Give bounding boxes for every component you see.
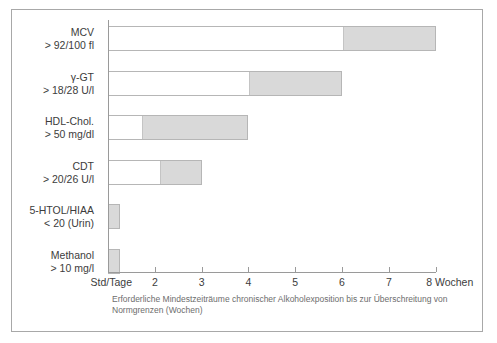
x-tick-mark: [248, 267, 249, 272]
x-tick-label: 2: [152, 276, 158, 288]
bar-mcv: [108, 26, 436, 51]
bar-row-label: MCV> 92/100 fl: [0, 26, 94, 52]
bar-row-label: HDL-Chol.> 50 mg/dl: [0, 115, 94, 141]
figure-frame: MCV> 92/100 flγ-GT> 18/28 U/lHDL-Chol.> …: [11, 9, 483, 332]
x-tick-label: 5: [292, 276, 298, 288]
bar-row-label: 5-HTOL/HIAA< 20 (Urin): [0, 204, 94, 230]
bar-label-threshold: > 18/28 U/l: [0, 84, 94, 97]
bar-5-htol-hiaa: [108, 204, 120, 229]
bar-gt: [108, 71, 342, 96]
bar-fill-segment: [142, 116, 248, 139]
bar-fill-segment: [160, 161, 200, 184]
bar-label-name: γ-GT: [0, 71, 94, 84]
bar-row-label: Methanol> 10 mg/l: [0, 249, 94, 275]
bar-methanol: [108, 249, 120, 274]
bar-label-name: CDT: [0, 160, 94, 173]
x-tick-label: Std/Tage: [91, 276, 132, 288]
x-tick-mark: [389, 267, 390, 272]
bar-fill-segment: [249, 72, 341, 95]
x-tick-mark: [155, 267, 156, 272]
bar-row: CDT> 20/26 U/l: [12, 160, 482, 185]
bar-row-label: γ-GT> 18/28 U/l: [0, 71, 94, 97]
bar-row: γ-GT> 18/28 U/l: [12, 71, 482, 96]
x-tick-label: 3: [199, 276, 205, 288]
x-tick-mark: [436, 267, 437, 272]
bar-label-name: MCV: [0, 26, 94, 39]
x-tick-label: 4: [245, 276, 251, 288]
bar-label-name: Methanol: [0, 249, 94, 262]
bar-row: Methanol> 10 mg/l: [12, 249, 482, 274]
bar-label-name: 5-HTOL/HIAA: [0, 204, 94, 217]
x-tick-mark: [108, 267, 109, 272]
bar-row: MCV> 92/100 fl: [12, 26, 482, 51]
bar-label-threshold: > 20/26 U/l: [0, 173, 94, 186]
x-tick-mark: [295, 267, 296, 272]
bar-fill-segment: [343, 27, 435, 50]
bar-label-threshold: < 20 (Urin): [0, 217, 94, 230]
x-axis-line: [108, 272, 436, 273]
bar-row: HDL-Chol.> 50 mg/dl: [12, 115, 482, 140]
x-tick-label: 6: [339, 276, 345, 288]
bar-row-label: CDT> 20/26 U/l: [0, 160, 94, 186]
bar-chart-plot: MCV> 92/100 flγ-GT> 18/28 U/lHDL-Chol.> …: [12, 10, 482, 331]
x-tick-mark: [342, 267, 343, 272]
bar-row: 5-HTOL/HIAA< 20 (Urin): [12, 204, 482, 229]
bar-cdt: [108, 160, 202, 185]
x-tick-label: 8 Wochen: [426, 276, 473, 288]
bar-hdl-chol: [108, 115, 248, 140]
bar-label-threshold: > 50 mg/dl: [0, 128, 94, 141]
x-tick-label: 7: [386, 276, 392, 288]
chart-caption: Erforderliche Mindestzeiträume chronisch…: [112, 294, 452, 316]
bar-label-name: HDL-Chol.: [0, 115, 94, 128]
bar-label-threshold: > 92/100 fl: [0, 39, 94, 52]
y-axis-line: [108, 20, 109, 272]
bar-label-threshold: > 10 mg/l: [0, 262, 94, 275]
x-tick-mark: [202, 267, 203, 272]
